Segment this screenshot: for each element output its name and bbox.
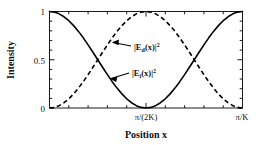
intensity-vs-position-chart: 1 0.5 0 Intensity π/(2K) π/K Position x … [0,0,263,145]
y-tick-label-0.5: 0.5 [34,56,46,66]
incident-field-label: |Ei(x)|2 [132,68,156,80]
y-tick-label-1: 1 [41,7,46,17]
x-axis-title: Position x [125,129,167,140]
y-axis-title: Intensity [5,41,16,79]
x-tick-label-right: π/K [236,112,250,122]
diffracted-label-mid: (x)| [145,42,157,52]
diffracted-field-label: |Ed(x)|2 [134,42,160,54]
incident-label-mid: (x)| [141,68,153,78]
y-tick-label-0: 0 [41,104,46,114]
diffracted-label-sup: 2 [157,42,160,48]
x-tick-label-center: π/(2K) [135,112,158,122]
incident-label-sup: 2 [153,68,156,74]
figure-container: 1 0.5 0 Intensity π/(2K) π/K Position x … [0,0,263,145]
